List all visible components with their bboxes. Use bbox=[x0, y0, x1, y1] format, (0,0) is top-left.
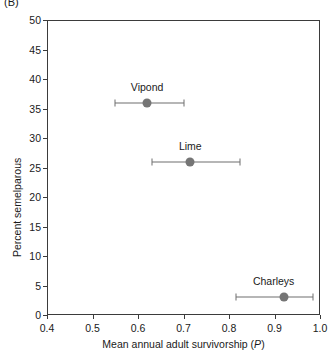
plot-area: VipondLimeCharleys bbox=[47, 20, 320, 315]
x-axis-tick-mark bbox=[184, 315, 185, 319]
y-axis-tick-label: 45 bbox=[13, 44, 41, 56]
y-axis-tick-mark bbox=[43, 138, 47, 139]
y-axis-tick-label: 0 bbox=[13, 309, 41, 321]
y-axis-tick-label: 50 bbox=[13, 14, 41, 26]
error-bar-cap-low bbox=[235, 294, 236, 301]
data-point-marker bbox=[186, 157, 195, 166]
x-axis-tick-label: 0.7 bbox=[176, 322, 191, 334]
x-axis-tick-mark bbox=[47, 315, 48, 319]
y-axis-tick-mark bbox=[43, 168, 47, 169]
y-axis-tick-label: 20 bbox=[13, 191, 41, 203]
error-bar-line bbox=[236, 297, 313, 298]
panel-label: (B) bbox=[4, 0, 19, 8]
error-bar-line bbox=[152, 161, 241, 162]
data-point-label: Charleys bbox=[253, 275, 294, 287]
x-axis-title-text: Mean annual adult survivorship ( bbox=[102, 338, 254, 350]
y-axis-tick-mark bbox=[43, 227, 47, 228]
y-axis-tick-mark bbox=[43, 79, 47, 80]
x-axis-title: Mean annual adult survivorship (P) bbox=[47, 338, 320, 350]
y-axis-tick-label: 10 bbox=[13, 250, 41, 262]
y-axis-tick-label: 15 bbox=[13, 221, 41, 233]
x-axis-tick-mark bbox=[93, 315, 94, 319]
x-axis-tick-label: 1.0 bbox=[313, 322, 328, 334]
x-axis-tick-label: 0.8 bbox=[222, 322, 237, 334]
error-bar-cap-low bbox=[115, 99, 116, 106]
x-axis-tick-mark bbox=[320, 315, 321, 319]
y-axis-tick-mark bbox=[43, 256, 47, 257]
data-point-label: Vipond bbox=[131, 81, 164, 93]
x-axis-tick-label: 0.5 bbox=[85, 322, 100, 334]
y-axis-tick-mark bbox=[43, 50, 47, 51]
data-point-label: Lime bbox=[179, 140, 202, 152]
y-axis-tick-mark bbox=[43, 286, 47, 287]
y-axis-tick-mark bbox=[43, 197, 47, 198]
y-axis-tick-mark bbox=[43, 109, 47, 110]
figure-panel-b: (B) VipondLimeCharleys Percent semelparo… bbox=[0, 0, 332, 356]
x-axis-tick-label: 0.4 bbox=[40, 322, 55, 334]
error-bar-cap-low bbox=[151, 158, 152, 165]
x-axis-tick-label: 0.9 bbox=[267, 322, 282, 334]
error-bar-cap-high bbox=[183, 99, 184, 106]
x-axis-title-paren: ) bbox=[261, 338, 265, 350]
x-axis-tick-mark bbox=[138, 315, 139, 319]
x-axis-tick-label: 0.6 bbox=[131, 322, 146, 334]
data-point-marker bbox=[279, 293, 288, 302]
y-axis-tick-label: 40 bbox=[13, 73, 41, 85]
error-bar-cap-high bbox=[313, 294, 314, 301]
y-axis-tick-label: 35 bbox=[13, 103, 41, 115]
error-bar-cap-high bbox=[240, 158, 241, 165]
data-point-marker bbox=[143, 98, 152, 107]
y-axis-tick-label: 25 bbox=[13, 162, 41, 174]
y-axis-tick-mark bbox=[43, 20, 47, 21]
x-axis-tick-mark bbox=[229, 315, 230, 319]
y-axis-tick-label: 5 bbox=[13, 280, 41, 292]
x-axis-tick-mark bbox=[275, 315, 276, 319]
y-axis-tick-label: 30 bbox=[13, 132, 41, 144]
